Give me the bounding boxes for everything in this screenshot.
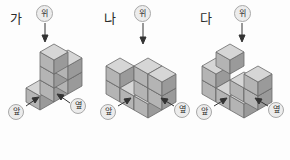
cube-structure-ga bbox=[0, 0, 98, 132]
worksheet: 가 위 앞 옆 bbox=[0, 0, 290, 160]
cube-structure-na bbox=[96, 0, 196, 132]
answer-row: ( ) bbox=[0, 128, 290, 160]
cube-structure-da bbox=[192, 0, 290, 132]
figure-group-da: 다 위 앞 옆 bbox=[192, 0, 290, 132]
figure-group-na: 나 위 앞 옆 bbox=[96, 0, 196, 132]
figure-group-ga: 가 위 앞 옆 bbox=[0, 0, 98, 132]
